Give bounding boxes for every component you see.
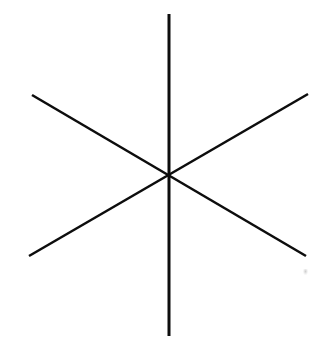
figure-canvas <box>0 0 325 343</box>
asterisk-figure-svg <box>0 0 325 343</box>
